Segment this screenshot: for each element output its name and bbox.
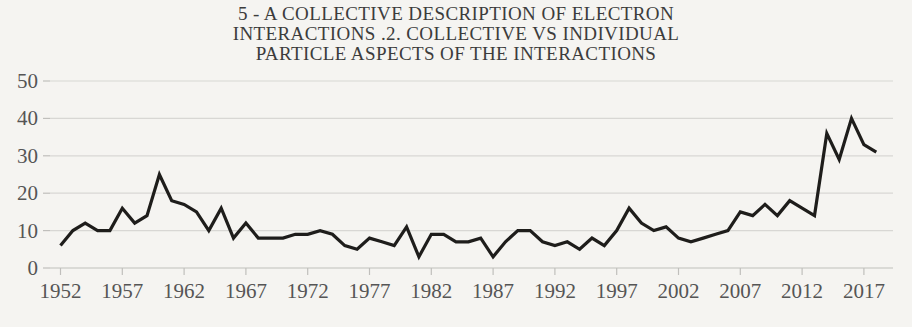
y-axis-label: 10 [17,219,38,243]
chart-title-line-1: 5 - A COLLECTIVE DESCRIPTION OF ELECTRON [0,4,912,24]
x-axis-label: 1977 [349,279,391,303]
y-axis-label: 20 [17,181,38,205]
x-axis-label: 1967 [225,279,267,303]
y-axis-label: 40 [17,106,38,130]
x-axis-label: 1987 [472,279,514,303]
y-axis-label: 30 [17,144,38,168]
x-axis-label: 1952 [40,279,82,303]
x-axis-label: 1992 [534,279,576,303]
x-axis-label: 1997 [596,279,638,303]
x-axis-label: 2007 [719,279,761,303]
chart-title: 5 - A COLLECTIVE DESCRIPTION OF ELECTRON… [0,4,912,64]
chart-title-line-3: PARTICLE ASPECTS OF THE INTERACTIONS [0,44,912,64]
citation-trend-chart: 5 - A COLLECTIVE DESCRIPTION OF ELECTRON… [0,0,912,327]
x-axis-label: 1972 [287,279,329,303]
y-axis-label: 0 [28,256,39,280]
data-line [61,118,877,256]
x-axis-label: 1982 [410,279,452,303]
x-axis-label: 2002 [658,279,700,303]
x-axis-label: 1957 [101,279,143,303]
y-axis-label: 50 [17,69,38,93]
x-axis-label: 2017 [843,279,885,303]
chart-title-line-2: INTERACTIONS .2. COLLECTIVE VS INDIVIDUA… [0,24,912,44]
x-axis-label: 2012 [781,279,823,303]
x-axis-label: 1962 [163,279,205,303]
